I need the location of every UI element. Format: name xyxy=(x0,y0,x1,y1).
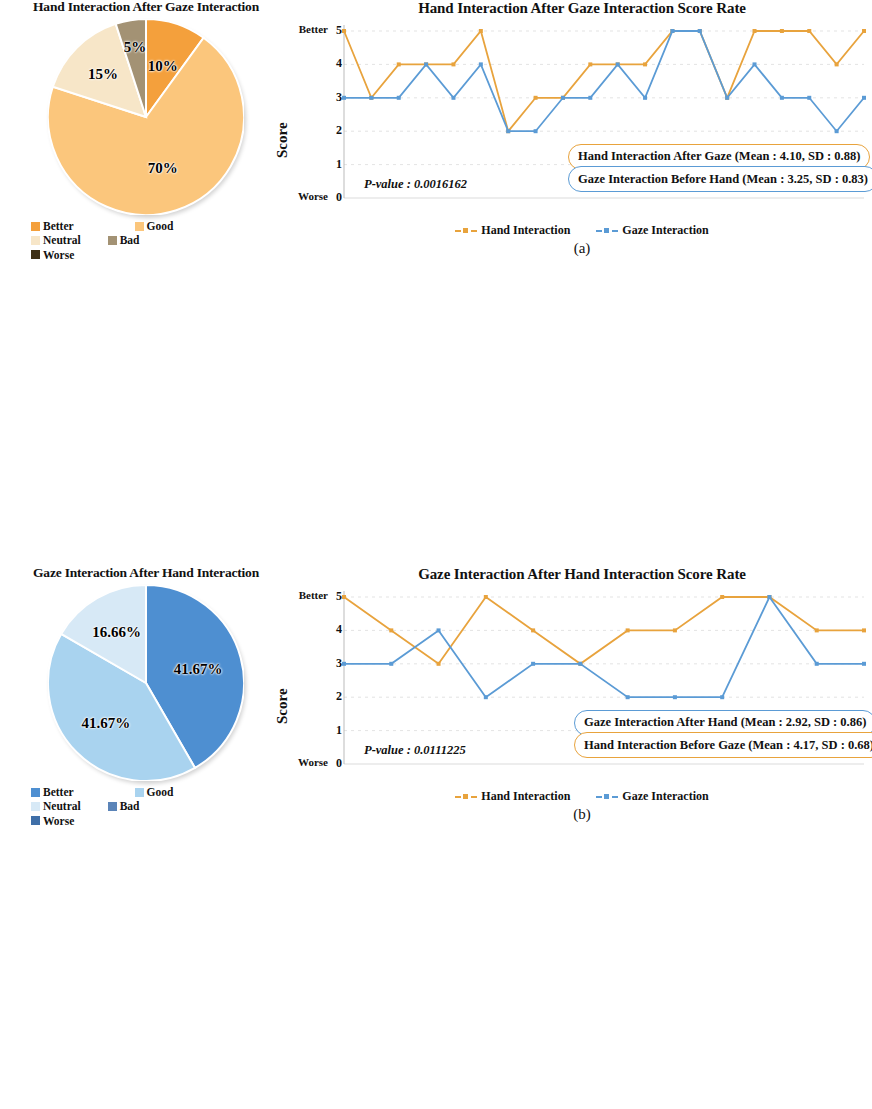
legend-swatch-icon xyxy=(108,236,117,245)
data-point xyxy=(342,96,346,100)
panel-a-pie-wrap: 10%70%15%5% xyxy=(0,15,292,215)
legend-swatch-icon xyxy=(31,222,40,231)
pie-legend-item: Better xyxy=(31,219,135,233)
line-legend-item: Hand Interaction xyxy=(455,223,570,238)
pie-slice-label: 70% xyxy=(148,160,178,177)
legend-swatch-icon xyxy=(31,236,40,245)
panel-a-caption: (a) xyxy=(292,240,872,257)
data-point xyxy=(479,29,483,33)
y-axis-title: Score xyxy=(274,122,291,158)
panel-a-pie-title: Hand Interaction After Gaze Interaction xyxy=(0,0,292,15)
data-point xyxy=(862,96,866,100)
line-legend-label: Hand Interaction xyxy=(481,223,570,238)
data-point xyxy=(397,96,401,100)
data-point xyxy=(451,96,455,100)
data-point xyxy=(780,29,784,33)
data-point xyxy=(534,96,538,100)
pie-legend-label: Bad xyxy=(120,233,140,247)
line-legend-item: Gaze Interaction xyxy=(596,223,708,238)
y-tick-label: 1 xyxy=(328,158,342,171)
data-point xyxy=(534,129,538,133)
pie-legend-label: Worse xyxy=(43,248,74,262)
panel-d: Satisfaction of Hand Interaction Only 41… xyxy=(0,834,872,1109)
data-point xyxy=(369,96,373,100)
data-point xyxy=(835,62,839,66)
callout-gaze-before-hand: Gaze Interaction Before Hand (Mean : 3.2… xyxy=(568,166,872,192)
pie-legend-label: Better xyxy=(43,219,74,233)
axis-bottom-label: Worse xyxy=(288,191,328,203)
legend-line-marker-icon xyxy=(455,227,477,235)
data-point xyxy=(643,96,647,100)
data-point xyxy=(479,62,483,66)
pie-legend-label: Good xyxy=(147,219,174,233)
legend-line-marker-icon xyxy=(596,227,618,235)
y-tick-label: 3 xyxy=(328,91,342,104)
data-point xyxy=(397,62,401,66)
pie-legend-item: Worse xyxy=(31,248,108,262)
axis-top-label: Better xyxy=(288,24,328,36)
pie-legend-item: Good xyxy=(135,219,212,233)
data-point xyxy=(451,62,455,66)
pie-slice-label: 5% xyxy=(124,39,147,56)
line-chart-a: 543210BetterWorseScoreP-value : 0.001616… xyxy=(292,17,872,222)
pie-slice-label: 15% xyxy=(88,65,118,82)
p-value-annotation: P-value : 0.0016162 xyxy=(364,177,467,192)
data-point xyxy=(424,62,428,66)
data-point xyxy=(342,29,346,33)
pie-legend-item: Neutral xyxy=(31,233,108,247)
pie-legend-label: Neutral xyxy=(43,233,81,247)
pie-a-legend: BetterGoodNeutralBadWorse xyxy=(31,219,261,262)
data-point xyxy=(753,62,757,66)
panel-c: Satisfaction of Gaze Interaction Only 20… xyxy=(0,556,872,834)
y-tick-label: 0 xyxy=(328,191,342,204)
legend-swatch-icon xyxy=(135,222,144,231)
panel-a: Hand Interaction After Gaze Interaction … xyxy=(0,0,872,278)
data-point xyxy=(588,62,592,66)
data-point xyxy=(835,129,839,133)
legend-swatch-icon xyxy=(31,250,40,259)
pie-chart-a: 10%70%15%5% xyxy=(48,19,244,215)
data-point xyxy=(506,129,510,133)
data-point xyxy=(725,96,729,100)
data-point xyxy=(561,96,565,100)
data-point xyxy=(670,29,674,33)
panel-a-line-block: Hand Interaction After Gaze Interaction … xyxy=(292,0,872,257)
data-point xyxy=(780,96,784,100)
panel-b: Gaze Interaction After Hand Interaction … xyxy=(0,278,872,556)
figure-root: Hand Interaction After Gaze Interaction … xyxy=(0,0,872,1109)
y-tick-label: 2 xyxy=(328,124,342,137)
data-point xyxy=(807,96,811,100)
y-tick-label: 5 xyxy=(328,24,342,37)
panel-a-line-title: Hand Interaction After Gaze Interaction … xyxy=(292,0,872,17)
data-point xyxy=(807,29,811,33)
y-tick-label: 4 xyxy=(328,57,342,70)
pie-legend-item: Bad xyxy=(108,233,212,247)
data-point xyxy=(643,62,647,66)
data-point xyxy=(753,29,757,33)
data-point xyxy=(698,29,702,33)
line-legend-label: Gaze Interaction xyxy=(622,223,708,238)
line-a-legend: Hand InteractionGaze Interaction xyxy=(292,223,872,238)
data-point xyxy=(588,96,592,100)
pie-slice-label: 10% xyxy=(148,57,178,74)
data-point xyxy=(862,29,866,33)
data-point xyxy=(616,62,620,66)
panel-a-pie-block: Hand Interaction After Gaze Interaction … xyxy=(0,0,292,262)
series-line xyxy=(344,31,864,131)
